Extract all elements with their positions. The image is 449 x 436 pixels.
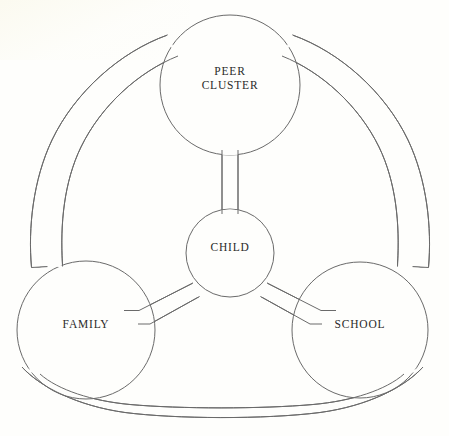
spoke-child-to-peer-cluster <box>222 153 238 213</box>
arc-peer-cluster-to-family <box>30 34 178 268</box>
diagram-vector-layer <box>0 0 449 436</box>
node-circle-child[interactable] <box>186 209 274 297</box>
arc-peer-cluster-to-school <box>282 35 430 268</box>
node-circle-school[interactable] <box>292 262 428 398</box>
node-circle-peer-cluster[interactable] <box>160 15 300 155</box>
node-circle-family[interactable] <box>17 261 155 399</box>
diagram-canvas: PEER CLUSTER CHILD FAMILY SCHOOL <box>0 0 449 436</box>
